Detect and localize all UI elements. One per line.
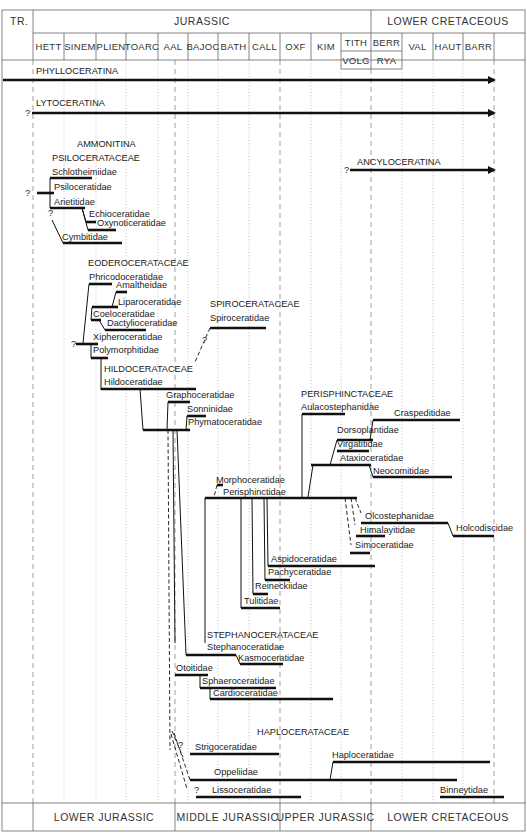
uncertain-mark: ? — [25, 188, 30, 198]
suborder-lytoceratina: LYTOCERATINA ? — [25, 98, 494, 118]
spiroceratidae-label: Spiroceratidae — [210, 313, 269, 323]
stage-toarc: TOARC — [125, 41, 160, 52]
psiloceratidae-label: Psiloceratidae — [54, 182, 112, 192]
aspidoceratidae-label: Aspidoceratidae — [271, 554, 337, 564]
xipheroceratidae-label: Xipheroceratidae — [93, 332, 162, 342]
uncertain-mark: ? — [194, 785, 199, 795]
lower-jurassic-label: LOWER JURASSIC — [54, 811, 154, 823]
ammonitina-label: AMMONITINA — [77, 139, 137, 149]
uncertain-mark: ? — [178, 740, 183, 750]
triassic-label: TR. — [10, 15, 28, 27]
header-table: TR. JURASSIC LOWER CRETACEOUS HETT SINEM… — [2, 10, 525, 69]
substage-volg: VOLG — [342, 55, 370, 66]
lytoceratina-label: LYTOCERATINA — [36, 98, 106, 108]
holcodiscidae-label: Holcodiscidae — [456, 523, 513, 533]
reineckiidae-label: Reineckiidae — [255, 581, 308, 591]
middle-jurassic-label: MIDDLE JURASSIC — [176, 811, 278, 823]
uncertain-mark: ? — [344, 165, 349, 175]
binneytidae-label: Binneytidae — [440, 785, 488, 795]
stage-val: VAL — [408, 41, 426, 52]
polymorphitidae-label: Polymorphitidae — [93, 345, 159, 355]
haploceratacea-label: HAPLOCERATACEAE — [257, 727, 349, 737]
liparoceratidae-label: Liparoceratidae — [118, 297, 181, 307]
olcostephanidae-label: Olcostephanidae — [365, 511, 434, 521]
haploceratidae-label: Haploceratidae — [332, 750, 394, 760]
upper-jurassic-label: UPPER JURASSIC — [276, 811, 374, 823]
sonninidae-label: Sonninidae — [187, 404, 233, 414]
lower-cretaceous-label: LOWER CRETACEOUS — [387, 15, 509, 27]
stage-barr: BARR — [465, 41, 493, 52]
spiroceratacea-group: SPIROCERATACEAE Spiroceratidae ? — [195, 299, 300, 362]
substage-rya: RYA — [377, 55, 397, 66]
psiloceratacea-group: AMMONITINA PSILOCERATACEAE Schlotheimiid… — [25, 139, 166, 243]
stephanoceratacea-group: STEPHANOCERATACEAE Stephanoceratidae Kas… — [175, 630, 333, 699]
stage-berr: BERR — [373, 37, 401, 48]
craspeditidae-label: Craspeditidae — [394, 408, 451, 418]
simoceratidae-label: Simoceratidae — [355, 540, 414, 550]
lower-cretaceous-footer-label: LOWER CRETACEOUS — [387, 811, 509, 823]
stage-kim: KIM — [317, 41, 335, 52]
cymbitidae-label: Cymbitidae — [62, 232, 108, 242]
ammonite-phylogeny-diagram: TR. JURASSIC LOWER CRETACEOUS HETT SINEM… — [0, 0, 527, 833]
strigoceratidae-label: Strigoceratidae — [195, 742, 257, 752]
oxynoticeratidae-label: Oxynoticeratidae — [97, 218, 166, 228]
spiroceratacea-label: SPIROCERATACEAE — [210, 299, 300, 309]
suborder-ancyloceratina: ANCYLOCERATINA ? — [344, 157, 494, 175]
dactylioceratidae-label: Dactylioceratidae — [107, 318, 177, 328]
graphoceratidae-label: Graphoceratidae — [166, 390, 234, 400]
phymatoceratidae-label: Phymatoceratidae — [188, 417, 262, 427]
stage-call: CALL — [252, 41, 277, 52]
sphaeroceratidae-label: Sphaeroceratidae — [202, 676, 275, 686]
stage-bajoc: BAJOC — [186, 41, 219, 52]
stage-bath: BATH — [221, 41, 247, 52]
hildoceratidae-label: Hildoceratidae — [104, 377, 163, 387]
lissoceratidae-label: Lissoceratidae — [212, 785, 271, 795]
virgatitidae-label: Virgatitidae — [337, 439, 383, 449]
stage-aal: AAL — [164, 41, 183, 52]
aulacostephanidae-label: Aulacostephanidae — [301, 402, 379, 412]
uncertain-mark: ? — [48, 208, 53, 218]
uncertain-mark: ? — [25, 108, 30, 118]
stage-plien: PLIEN — [97, 41, 126, 52]
arietitidae-label: Arietitidae — [54, 197, 95, 207]
stephanoceratacea-label: STEPHANOCERATACEAE — [207, 630, 318, 640]
dorsoplanitidae-label: Dorsoplantidae — [337, 425, 399, 435]
perisphinctacea-group: PERISPHINCTACEAE Aulacostephanidae Crasp… — [205, 389, 513, 643]
himalayitidae-label: Himalayitidae — [360, 525, 415, 535]
tulitidae-label: Tulitidae — [244, 596, 278, 606]
ancyloceratina-label: ANCYLOCERATINA — [357, 157, 441, 167]
uncertain-mark: ? — [202, 335, 207, 345]
perisphinctidae-label: Perisphinctidae — [223, 487, 286, 497]
schlotheimiidae-label: Schlotheimiidae — [52, 167, 117, 177]
neocomitidae-label: Neocomitidae — [373, 466, 429, 476]
stage-sinem: SINEM — [64, 41, 96, 52]
stage-oxf: OXF — [285, 41, 305, 52]
perisphinctacea-label: PERISPHINCTACEAE — [301, 389, 393, 399]
eoderoceratacea-label: EODEROCERATACEAE — [88, 258, 189, 268]
psiloceratacea-label: PSILOCERATACEAE — [52, 153, 140, 163]
pachyceratidae-label: Pachyceratidae — [268, 567, 331, 577]
cardioceratidae-label: Cardioceratidae — [213, 688, 278, 698]
kasmoceratidae-label: Kasmoceratidae — [238, 653, 304, 663]
phylloceratina-label: PHYLLOCERATINA — [36, 66, 119, 76]
jurassic-label: JURASSIC — [174, 15, 230, 27]
footer-table: LOWER JURASSIC MIDDLE JURASSIC UPPER JUR… — [2, 803, 525, 831]
stage-haut: HAUT — [434, 41, 461, 52]
ataxioceratidae-label: Ataxioceratidae — [340, 453, 403, 463]
amaltheidae-label: Amaltheidae — [116, 280, 167, 290]
stephanoceratidae-label: Stephanoceratidae — [207, 642, 284, 652]
hildoceratacea-label: HILDOCERATACEAE — [104, 364, 193, 374]
morphoceratidae-label: Morphoceratidae — [216, 475, 285, 485]
suborder-phylloceratina: PHYLLOCERATINA — [3, 66, 494, 80]
uncertain-mark: ? — [71, 339, 76, 349]
haploceratacea-group: HAPLOCERATACEAE ? ? Strigoceratidae Hapl… — [171, 727, 504, 797]
oppeliidae-label: Oppeliidae — [214, 767, 258, 777]
stage-hett: HETT — [35, 41, 61, 52]
otoitidae-label: Otoitidae — [176, 663, 213, 673]
stage-tith: TITH — [345, 37, 367, 48]
